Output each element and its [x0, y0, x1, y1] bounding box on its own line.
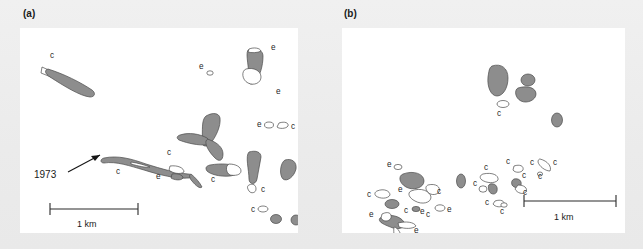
- feature-label: c: [522, 171, 526, 180]
- small-open-ellipse-a2: [265, 122, 274, 128]
- scatter-blob-a1: [281, 159, 297, 179]
- feature-label: c: [251, 205, 255, 214]
- year-arrow-head: [91, 155, 100, 161]
- scatter-open-a2: [258, 206, 268, 212]
- hook-open-tip: [248, 48, 261, 53]
- fragment-blob-2: [190, 174, 202, 188]
- feature-label: c: [497, 109, 501, 118]
- feature-label: c: [500, 207, 504, 216]
- feature-label: e: [257, 120, 262, 129]
- scale-bar-b-label: 1 km: [554, 212, 574, 222]
- mid-blob-b4: [488, 184, 497, 194]
- column-open-foot: [248, 184, 257, 193]
- feature-label: c: [485, 198, 489, 207]
- left-blob-b8: [412, 206, 420, 211]
- feature-label: c: [538, 172, 542, 181]
- figure-container: (a) (b): [0, 0, 643, 249]
- scatter-blob-a4: [291, 215, 298, 225]
- feature-label: c: [50, 51, 54, 60]
- feature-label: c: [437, 187, 441, 196]
- feature-label: c: [367, 190, 371, 199]
- top-blob-b5: [552, 113, 563, 127]
- feature-label: e: [156, 172, 161, 181]
- top-open-b4: [497, 101, 509, 108]
- mid-open-b6: [538, 159, 551, 171]
- scatter-blob-a3: [271, 215, 282, 224]
- fragment-open-3: [226, 164, 241, 175]
- feature-label: c: [530, 158, 534, 167]
- top-blob-b1: [488, 65, 508, 96]
- panel-b-label: (b): [344, 8, 357, 19]
- feature-label: e: [276, 87, 281, 96]
- y-blob-lower-arm: [206, 139, 223, 160]
- mid-blob-b1: [457, 174, 466, 188]
- mid-open-b2: [480, 173, 498, 182]
- feature-label: e: [271, 43, 276, 52]
- column-blob: [247, 151, 261, 183]
- panel-b-map: 1 km c e c e c c e c e e e e e c c c c c…: [342, 28, 625, 233]
- feature-label: c: [473, 179, 477, 188]
- feature-label: e: [398, 185, 403, 194]
- left-open-b1: [394, 164, 402, 169]
- top-blob-b2: [521, 74, 535, 86]
- feature-label: c: [167, 148, 171, 157]
- feature-label: c: [484, 163, 488, 172]
- scale-bar-b: [524, 195, 616, 207]
- top-blob-b3: [516, 87, 536, 102]
- feature-label: e: [369, 210, 374, 219]
- feature-label: c: [404, 206, 408, 215]
- left-blob-b4: [385, 200, 399, 209]
- feature-label: c: [261, 185, 265, 194]
- left-blob-b2: [400, 172, 424, 188]
- feature-label: c: [116, 167, 120, 176]
- hook-open-lobe: [243, 68, 261, 84]
- feature-label: c: [553, 158, 557, 167]
- mid-open-b3: [479, 186, 487, 192]
- glacier-blob: [46, 69, 95, 97]
- panel-a-label: (a): [23, 8, 35, 19]
- feature-label: c: [291, 122, 295, 131]
- feature-label: e: [387, 160, 392, 169]
- feature-label: e: [199, 62, 204, 71]
- feature-label: e: [414, 226, 419, 233]
- feature-label: e: [447, 205, 452, 214]
- panel-a-map: 1973 1 km c e e e e c c c e c c c: [20, 28, 298, 233]
- year-annotation: 1973: [34, 169, 57, 180]
- small-open-ellipse-a1: [207, 71, 213, 75]
- feature-label: c: [211, 175, 215, 184]
- feature-label: c: [523, 188, 527, 197]
- scale-bar-a-label: 1 km: [77, 219, 97, 229]
- left-open-b3: [375, 190, 390, 198]
- small-open-shape-a3: [277, 122, 288, 128]
- scale-bar-a: [50, 203, 138, 215]
- left-open-b7: [435, 205, 445, 211]
- feature-label: c: [506, 157, 510, 166]
- left-open-b10: [381, 213, 391, 221]
- feature-label: e: [420, 207, 425, 216]
- feature-label: c: [426, 210, 430, 219]
